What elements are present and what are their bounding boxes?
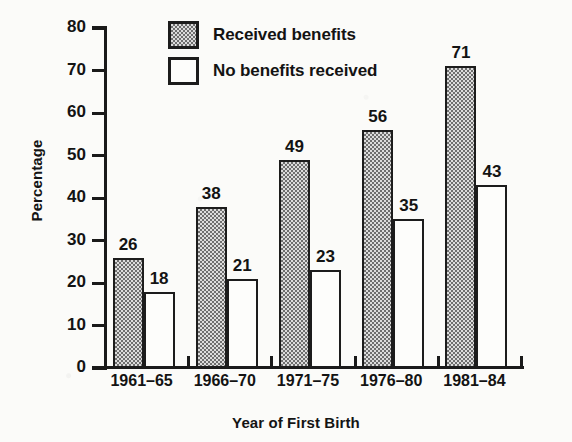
- y-axis-tick-label: 20: [32, 272, 86, 292]
- y-axis-tick-label: 40: [32, 187, 86, 207]
- y-axis-tick-label: 60: [32, 102, 86, 122]
- bar-received-benefits: [279, 160, 310, 368]
- bar-value-label: 71: [438, 43, 483, 63]
- x-axis-category-label: 1966–70: [183, 372, 266, 390]
- legend-swatch-received-benefits-icon: [168, 21, 199, 49]
- bar-received-benefits: [362, 130, 393, 368]
- chart-legend: Received benefits No benefits received: [168, 18, 377, 90]
- bar-received-benefits: [445, 66, 476, 368]
- x-axis-tick: [104, 356, 107, 368]
- x-axis-category-label: 1976–80: [350, 372, 433, 390]
- legend-item-received-benefits: Received benefits: [168, 18, 377, 51]
- x-axis-category-label: 1981–84: [433, 372, 516, 390]
- legend-item-no-benefits-received: No benefits received: [168, 54, 377, 87]
- legend-swatch-no-benefits-received-icon: [168, 57, 199, 85]
- legend-label-received-benefits: Received benefits: [213, 25, 356, 45]
- y-axis-tick-label: 30: [32, 230, 86, 250]
- bar-value-label: 56: [355, 107, 400, 127]
- bar-no-benefits-received: [144, 292, 175, 369]
- y-axis-tick-label: 0: [32, 357, 86, 377]
- bar-value-label: 26: [106, 235, 151, 255]
- y-axis-tick-label: 10: [32, 315, 86, 335]
- bar-received-benefits: [196, 207, 227, 369]
- bar-no-benefits-received: [393, 219, 424, 368]
- bar-no-benefits-received: [227, 279, 258, 368]
- x-axis-tick: [270, 356, 273, 368]
- legend-label-no-benefits-received: No benefits received: [213, 61, 377, 81]
- x-axis-category-label: 1961–65: [100, 372, 183, 390]
- y-axis-tick-label: 80: [32, 17, 86, 37]
- y-axis-tick-label: 50: [32, 145, 86, 165]
- x-axis-tick: [520, 356, 523, 368]
- bar-value-label: 49: [272, 137, 317, 157]
- x-axis-title: Year of First Birth: [96, 414, 496, 431]
- bar-no-benefits-received: [310, 270, 341, 368]
- x-axis-tick: [354, 356, 357, 368]
- bar-received-benefits: [113, 258, 144, 369]
- bar-chart-figure: Percentage 01020304050607080 26183821492…: [0, 0, 572, 442]
- x-axis-category-label: 1971–75: [266, 372, 349, 390]
- x-axis-tick: [437, 356, 440, 368]
- bar-no-benefits-received: [476, 185, 507, 368]
- bar-value-label: 38: [189, 184, 234, 204]
- y-axis-tick-label: 70: [32, 60, 86, 80]
- x-axis-tick: [187, 356, 190, 368]
